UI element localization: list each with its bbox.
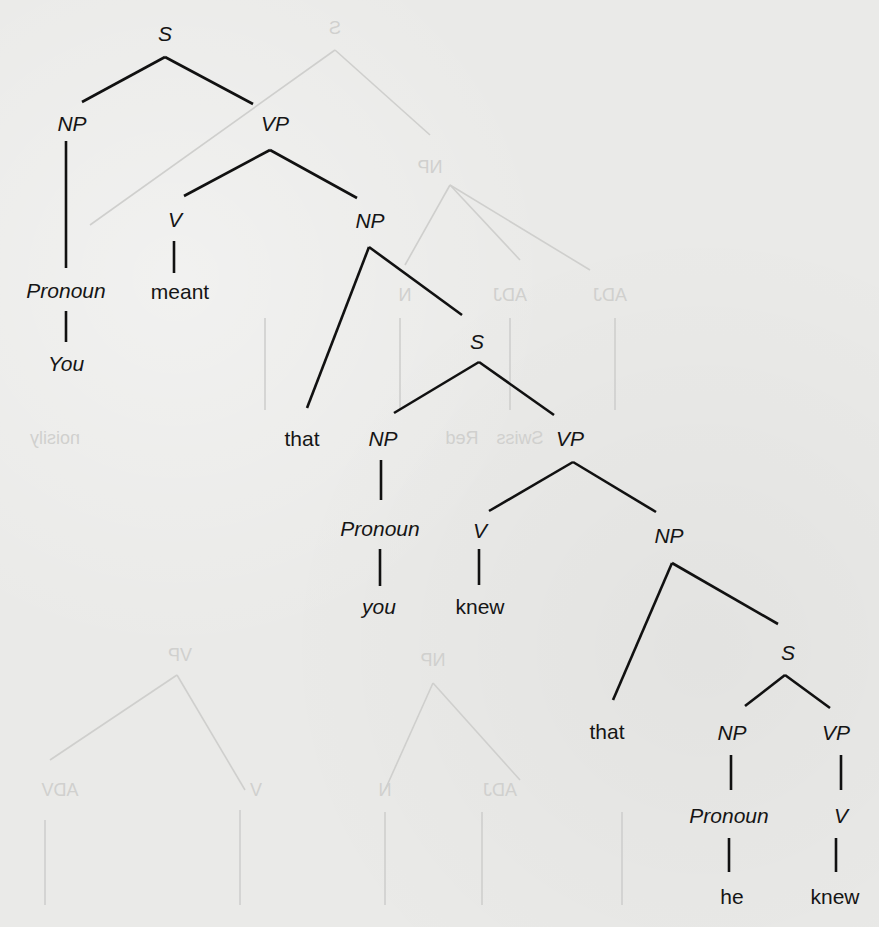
node-np-5: NP xyxy=(717,722,746,743)
edge xyxy=(394,362,479,413)
node-v-2: V xyxy=(473,520,487,541)
word-that-2: that xyxy=(589,721,624,742)
edge xyxy=(369,247,462,315)
node-np-4: NP xyxy=(654,525,683,546)
edge xyxy=(82,57,165,102)
edge xyxy=(573,462,656,512)
node-np-2: NP xyxy=(355,210,384,231)
node-vp-3: VP xyxy=(822,722,850,743)
node-vp-main: VP xyxy=(261,113,289,134)
node-pronoun-3: Pronoun xyxy=(689,805,768,826)
word-knew-1: knew xyxy=(455,596,504,617)
node-s-3: S xyxy=(781,642,795,663)
word-you-1: You xyxy=(48,353,84,374)
node-np-subject: NP xyxy=(57,113,86,134)
node-v-3: V xyxy=(834,805,848,826)
edge xyxy=(307,247,369,408)
edge xyxy=(613,563,672,700)
node-pronoun-2: Pronoun xyxy=(340,518,419,539)
node-v-1: V xyxy=(168,209,182,230)
edge xyxy=(165,57,253,104)
node-vp-2: VP xyxy=(556,428,584,449)
word-you-2: you xyxy=(362,596,396,617)
node-s-root: S xyxy=(158,23,172,44)
edge xyxy=(489,462,573,511)
word-he: he xyxy=(720,886,743,907)
word-knew-2: knew xyxy=(810,886,859,907)
edge xyxy=(184,150,270,196)
node-s-2: S xyxy=(470,331,484,352)
edge xyxy=(479,362,554,415)
edge xyxy=(785,675,830,708)
word-meant: meant xyxy=(151,281,209,302)
edge xyxy=(745,675,785,706)
edge xyxy=(672,563,778,624)
syntax-tree-edges xyxy=(0,0,879,927)
word-that-1: that xyxy=(284,428,319,449)
node-pronoun-1: Pronoun xyxy=(26,280,105,301)
edge xyxy=(270,150,357,198)
node-np-3: NP xyxy=(368,428,397,449)
